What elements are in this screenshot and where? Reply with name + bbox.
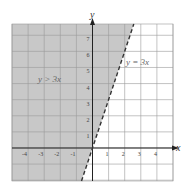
x-axis-label: x — [175, 142, 181, 153]
inequality-graph: -4-3-2-112341234567 y x y > 3x y = 3x — [0, 0, 186, 186]
y-axis-label: y — [89, 9, 95, 20]
y-tick-label: 3 — [87, 101, 90, 107]
region-label: y > 3x — [37, 74, 61, 84]
shaded-area — [12, 24, 134, 181]
y-tick-label: 2 — [87, 117, 90, 123]
y-tick-label: 1 — [87, 133, 90, 139]
line-label: y = 3x — [125, 57, 149, 67]
x-tick-label: 1 — [106, 151, 109, 157]
x-tick-label: -3 — [38, 151, 43, 157]
x-tick-label: -1 — [70, 151, 75, 157]
x-tick-label: -4 — [22, 151, 27, 157]
x-tick-label: -2 — [54, 151, 59, 157]
y-tick-label: 4 — [87, 85, 90, 91]
x-tick-label: 3 — [138, 151, 141, 157]
x-tick-label: 4 — [154, 151, 157, 157]
y-tick-label: 7 — [87, 36, 90, 42]
shaded-region — [12, 24, 134, 181]
y-tick-label: 5 — [87, 68, 90, 74]
y-tick-label: 6 — [87, 52, 90, 58]
x-tick-label: 2 — [122, 151, 125, 157]
